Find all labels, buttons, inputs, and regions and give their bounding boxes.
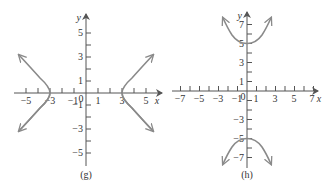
x-tick-label: −3 <box>213 93 224 104</box>
graph-g: −5 −3 −1 0 1 3 5 x 5 3 1 −1 −3 −5 y (g) <box>14 12 162 181</box>
y-axis-label: y <box>76 12 82 23</box>
x-axis-label: x <box>154 95 160 106</box>
x-tick-label: 7 <box>310 93 315 104</box>
y-tick-label: 3 <box>78 51 83 62</box>
x-tick-label: 1 <box>254 93 259 104</box>
graph-h: −7 −5 −3 −1 0 1 3 5 7 x 7 5 3 1 −3 −5 −7… <box>172 10 322 181</box>
x-tick-label: 5 <box>292 93 297 104</box>
y-tick-label: −3 <box>72 123 83 134</box>
x-tick-label: 1 <box>96 95 101 106</box>
x-axis-label: x <box>316 93 322 104</box>
figure-canvas: −5 −3 −1 0 1 3 5 x 5 3 1 −1 −3 −5 y (g) <box>0 0 327 196</box>
x-tick-label: −5 <box>21 95 32 106</box>
y-tick-label: 5 <box>78 27 83 38</box>
caption-g: (g) <box>80 169 92 181</box>
y-tick-label: 3 <box>239 57 244 68</box>
caption-h: (h) <box>241 169 253 181</box>
y-tick-label: −5 <box>72 147 83 158</box>
y-tick-label: 1 <box>78 75 83 86</box>
lower-branch-right <box>247 139 271 165</box>
y-axis-label: y <box>237 10 243 21</box>
upper-branch-right <box>247 18 271 44</box>
y-tick-label: −7 <box>233 152 244 163</box>
y-tick-label: −3 <box>233 114 244 125</box>
y-tick-label: 1 <box>239 76 244 87</box>
y-tick-label: −1 <box>72 99 83 110</box>
x-tick-label: 3 <box>273 93 278 104</box>
x-tick-label: 5 <box>144 95 149 106</box>
x-tick-label: −7 <box>175 93 186 104</box>
origin-label: 0 <box>241 91 246 102</box>
x-tick-label: −5 <box>194 93 205 104</box>
